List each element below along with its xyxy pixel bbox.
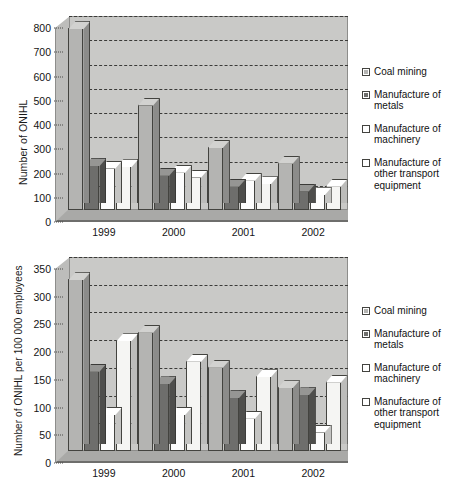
bar-group-2001: [208, 16, 271, 210]
y-axis-tick-label: 250: [33, 318, 51, 330]
coal-swatch-icon: [362, 307, 370, 315]
bar-front-face: [278, 387, 293, 451]
bar-front-face: [208, 147, 223, 210]
legend-label: Manufacture of machinery: [374, 123, 462, 146]
bar: [138, 332, 153, 451]
bar-group-2001: [208, 257, 271, 451]
x-axis-tick-label: 2000: [162, 467, 185, 479]
y-axis-tick-mark: [54, 52, 63, 53]
legend-item-manufacture-of-machinery[interactable]: Manufacture of machinery: [362, 362, 462, 385]
legend-label: Manufacture of metals: [374, 89, 462, 112]
legend-label: Coal mining: [374, 305, 427, 317]
bar-front-face: [68, 28, 83, 210]
chart-bottom: Number of ONIHL per 100 000 employees 05…: [0, 241, 462, 482]
bar-side-face: [293, 380, 300, 444]
y-axis-tick-mark: [54, 28, 63, 29]
y-axis-tick-mark: [54, 435, 63, 436]
bar-group-2000: [138, 16, 201, 210]
bars-top: [69, 16, 348, 210]
bars-bottom: [69, 257, 348, 451]
bar-front-face: [208, 367, 223, 451]
y-axis-tick-label: 0: [45, 457, 51, 469]
y-axis-tick-mark: [54, 463, 63, 464]
y-axis-tick-mark: [54, 125, 63, 126]
y-axis-tick-label: 50: [39, 429, 51, 441]
legend-item-manufacture-of-machinery[interactable]: Manufacture of machinery: [362, 123, 462, 146]
other-transport-swatch-icon: [362, 398, 370, 406]
y-axis-tick-mark: [54, 76, 63, 77]
bar-group-2000: [138, 257, 201, 451]
y-axis-tick-label: 100: [33, 192, 51, 204]
bar: [68, 279, 83, 451]
bar-side-face: [223, 360, 230, 444]
y-axis-tick-label: 200: [33, 346, 51, 358]
legend-label: Manufacture of machinery: [374, 362, 462, 385]
bar-side-face: [83, 21, 90, 203]
coal-swatch-icon: [362, 68, 370, 76]
y-axis-tick-mark: [54, 149, 63, 150]
legend-label: Coal mining: [374, 66, 427, 78]
x-axis-tick-label: 2001: [232, 226, 255, 238]
bar: [278, 387, 293, 451]
y-axis-tick-mark: [54, 197, 63, 198]
bar-group-1999: [68, 16, 131, 210]
y-axis-tick-label: 600: [33, 71, 51, 83]
y-axis-tick-label: 300: [33, 291, 51, 303]
legend-item-manufacture-of-metals[interactable]: Manufacture of metals: [362, 89, 462, 112]
y-axis-tick-mark: [54, 222, 63, 223]
metals-swatch-icon: [362, 330, 370, 338]
plot-area-bottom: 050100150200250300350: [55, 257, 348, 463]
y-axis-title-bottom: Number of ONIHL per 100 000 employees: [13, 265, 24, 456]
y-axis-tick-mark: [54, 100, 63, 101]
x-axis-tick-label: 1999: [92, 467, 115, 479]
x-axis-tick-label: 1999: [92, 226, 115, 238]
legend-label: Manufacture of metals: [374, 328, 462, 351]
bar-side-face: [99, 364, 106, 444]
y-axis-tick-mark: [54, 352, 63, 353]
bar-group-2002: [278, 257, 341, 451]
y-axis-tick-label: 400: [33, 119, 51, 131]
legend-item-manufacture-of-other-transport-equipment[interactable]: Manufacture of other transport equipment: [362, 396, 462, 431]
y-axis-tick-label: 700: [33, 46, 51, 58]
y-axis-tick-mark: [54, 296, 63, 297]
legend-item-coal-mining[interactable]: Coal mining: [362, 66, 462, 78]
y-axis-tick-mark: [54, 379, 63, 380]
bar-side-face: [309, 387, 316, 444]
y-axis-tick-label: 300: [33, 143, 51, 155]
bar-side-face: [153, 98, 160, 203]
y-axis-tick-mark: [54, 269, 63, 270]
legend-item-coal-mining[interactable]: Coal mining: [362, 305, 462, 317]
bar-front-face: [138, 105, 153, 210]
bar-side-face: [169, 376, 176, 444]
plot-floor: [55, 209, 348, 222]
y-axis-tick-label: 350: [33, 263, 51, 275]
y-axis-tick-label: 0: [45, 216, 51, 228]
bar: [208, 367, 223, 451]
bar-side-face: [83, 272, 90, 444]
bar: [278, 163, 293, 210]
bar-group-1999: [68, 257, 131, 451]
y-axis-tick-label: 500: [33, 95, 51, 107]
bar-front-face: [278, 163, 293, 210]
legend-label: Manufacture of other transport equipment: [374, 157, 462, 192]
metals-swatch-icon: [362, 91, 370, 99]
machinery-swatch-icon: [362, 364, 370, 372]
legend-item-manufacture-of-other-transport-equipment[interactable]: Manufacture of other transport equipment: [362, 157, 462, 192]
y-axis-tick-label: 150: [33, 374, 51, 386]
y-axis-title-top: Number of ONIHL: [17, 99, 29, 185]
bar-side-face: [239, 390, 246, 444]
bar: [138, 105, 153, 210]
bar-side-face: [223, 140, 230, 203]
x-axis-tick-label: 2000: [162, 226, 185, 238]
bar: [68, 28, 83, 210]
y-axis-tick-mark: [54, 173, 63, 174]
bar-side-face: [153, 325, 160, 444]
legend-bottom: Coal mining Manufacture of metals Manufa…: [362, 305, 462, 441]
plot-floor: [55, 450, 348, 463]
bar-group-2002: [278, 16, 341, 210]
y-axis-tick-label: 200: [33, 168, 51, 180]
legend-item-manufacture-of-metals[interactable]: Manufacture of metals: [362, 328, 462, 351]
chart-top: Number of ONIHL 010020030040050060070080…: [0, 0, 462, 241]
x-axis-tick-label: 2002: [301, 226, 324, 238]
other-transport-swatch-icon: [362, 159, 370, 167]
